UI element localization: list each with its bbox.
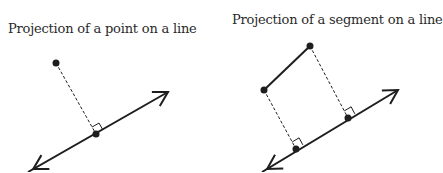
perpendicular-dashed-line bbox=[264, 90, 296, 149]
point-projection-diagram bbox=[28, 60, 168, 173]
projection-line bbox=[262, 90, 398, 172]
point bbox=[53, 60, 60, 67]
perpendicular-dashed-line bbox=[56, 63, 96, 134]
segment-endpoint bbox=[307, 43, 314, 50]
perpendicular-dashed-line bbox=[310, 46, 348, 118]
projected-point bbox=[345, 115, 352, 122]
segment bbox=[264, 46, 310, 90]
segment-projection-diagram bbox=[261, 43, 399, 173]
projection-diagrams bbox=[0, 0, 427, 172]
projected-point bbox=[293, 146, 300, 153]
segment-endpoint bbox=[261, 87, 268, 94]
right-angle-marker bbox=[344, 107, 355, 114]
right-angle-marker bbox=[292, 138, 303, 145]
projected-point bbox=[93, 131, 100, 138]
